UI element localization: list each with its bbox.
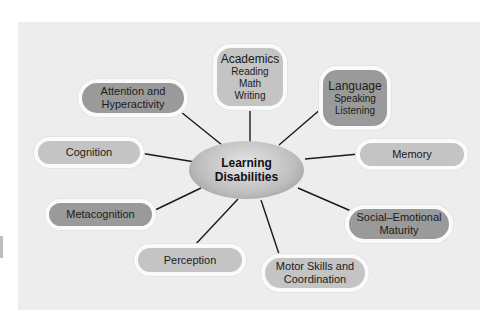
- node-academics-item: Writing: [235, 90, 266, 102]
- link-social: [298, 188, 351, 211]
- link-perception: [194, 199, 238, 246]
- node-academics-item: Math: [239, 78, 261, 90]
- node-cognition-label: Cognition: [66, 146, 112, 159]
- link-motor: [261, 200, 279, 254]
- node-language: Language Speaking Listening: [319, 66, 391, 130]
- node-academics: Academics Reading Math Writing: [213, 44, 287, 110]
- node-social-line1: Social–Emotional: [357, 211, 442, 224]
- node-attention-hyperactivity: Attention and Hyperactivity: [78, 79, 188, 117]
- node-metacognition-label: Metacognition: [66, 208, 135, 221]
- node-perception-label: Perception: [164, 254, 217, 267]
- link-metacognition: [151, 188, 201, 212]
- node-language-item: Listening: [335, 105, 375, 117]
- link-attention: [181, 112, 222, 145]
- node-academics-item: Reading: [231, 66, 268, 78]
- center-line2: Disabilities: [215, 170, 278, 184]
- node-attention-line2: Hyperactivity: [102, 98, 165, 111]
- node-metacognition: Metacognition: [45, 199, 156, 230]
- node-memory: Memory: [356, 139, 468, 170]
- node-social-emotional-maturity: Social–Emotional Maturity: [345, 205, 453, 243]
- center-line1: Learning: [221, 156, 272, 170]
- node-language-item: Speaking: [334, 93, 376, 105]
- center-node-learning-disabilities: Learning Disabilities: [189, 141, 304, 199]
- node-social-line2: Maturity: [379, 224, 418, 237]
- node-cognition: Cognition: [34, 137, 144, 168]
- node-memory-label: Memory: [392, 148, 432, 161]
- node-motor-skills-coordination: Motor Skills and Coordination: [261, 254, 369, 292]
- node-motor-line2: Coordination: [284, 273, 346, 286]
- node-academics-title: Academics: [221, 53, 280, 66]
- node-attention-line1: Attention and: [101, 85, 166, 98]
- link-cognition: [140, 153, 195, 162]
- link-memory: [305, 154, 359, 159]
- node-perception: Perception: [134, 244, 246, 276]
- link-language: [279, 108, 322, 145]
- node-motor-line1: Motor Skills and: [276, 260, 354, 273]
- node-language-title: Language: [328, 80, 381, 93]
